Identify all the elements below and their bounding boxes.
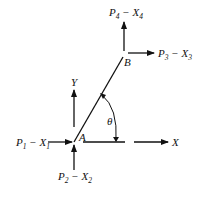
force-p1-label: P1 − X1 (15, 136, 50, 151)
point-a-label: A (78, 131, 86, 143)
force-p4-label: P4 − X4 (108, 6, 143, 21)
theta-arc-arrowhead-bottom (113, 137, 119, 142)
force-p2-label: P2 − X2 (57, 170, 92, 185)
angle-theta-label: θ (107, 115, 113, 127)
y-axis-label: Y (71, 76, 79, 88)
point-b-label: B (124, 56, 131, 68)
member-diagram: X Y θ A B P1 − X1 P2 − X2 P3 − X3 P4 − X… (0, 0, 203, 198)
force-p3-label: P3 − X3 (157, 47, 192, 62)
x-axis-label: X (171, 136, 180, 148)
